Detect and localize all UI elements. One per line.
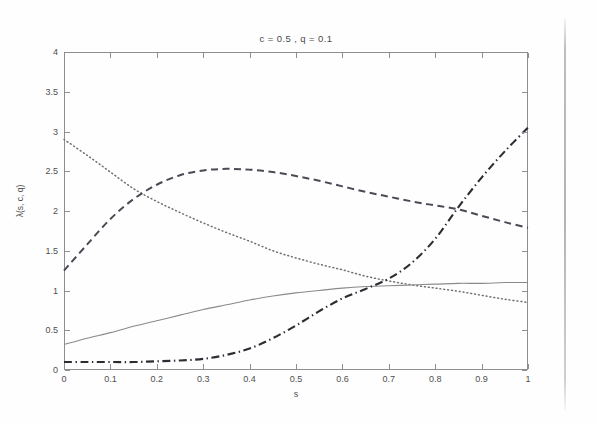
x-tick-mark (250, 53, 251, 58)
curve-dash-dot-rising (64, 128, 528, 363)
y-tick-mark (65, 291, 70, 292)
y-tick-mark (65, 251, 70, 252)
x-tick-mark (482, 364, 483, 369)
x-tick-mark (435, 53, 436, 58)
y-tick-label: 1 (53, 286, 58, 296)
y-tick-mark (522, 251, 527, 252)
y-tick-mark (65, 171, 70, 172)
x-tick-mark (296, 364, 297, 369)
x-tick-mark (110, 53, 111, 58)
x-tick-label: 0.8 (429, 374, 442, 384)
x-tick-mark (157, 364, 158, 369)
x-tick-label: 1 (525, 374, 530, 384)
y-tick-mark (65, 211, 70, 212)
y-tick-label: 3.5 (45, 87, 58, 97)
y-tick-mark (65, 132, 70, 133)
x-tick-mark (203, 53, 204, 58)
y-tick-mark (522, 291, 527, 292)
y-tick-label: 2.5 (45, 166, 58, 176)
x-tick-mark (250, 364, 251, 369)
x-tick-mark (528, 53, 529, 58)
y-tick-mark (522, 52, 527, 53)
y-tick-mark (65, 370, 70, 371)
y-tick-mark (522, 92, 527, 93)
x-axis-label: s (64, 389, 528, 399)
plot-title: c = 0.5 , q = 0.1 (64, 33, 528, 44)
x-tick-label-group: 00.10.20.30.40.50.60.70.80.91 (64, 374, 528, 388)
y-tick-label: 4 (53, 47, 58, 57)
figure-page: c = 0.5 , q = 0.1 λ(s, c, q) 00.511.522.… (0, 0, 597, 424)
x-tick-label: 0.5 (290, 374, 303, 384)
y-axis-label: λ(s, c, q) (15, 161, 25, 241)
x-tick-label: 0.1 (104, 374, 117, 384)
x-tick-label: 0.4 (243, 374, 256, 384)
scan-edge-artifact (564, 18, 566, 410)
x-tick-label: 0.7 (383, 374, 396, 384)
y-tick-mark (65, 92, 70, 93)
x-tick-mark (389, 364, 390, 369)
x-tick-mark (157, 53, 158, 58)
x-tick-mark (64, 53, 65, 58)
curve-group (64, 52, 528, 370)
x-tick-mark (203, 364, 204, 369)
x-tick-mark (296, 53, 297, 58)
y-tick-mark (522, 171, 527, 172)
x-tick-label: 0.3 (197, 374, 210, 384)
x-tick-label: 0.6 (336, 374, 349, 384)
x-tick-mark (389, 53, 390, 58)
x-tick-mark (110, 364, 111, 369)
x-tick-mark (342, 53, 343, 58)
y-tick-label: 2 (53, 206, 58, 216)
x-tick-mark (435, 364, 436, 369)
plot-axes (64, 52, 528, 370)
x-tick-mark (342, 364, 343, 369)
x-tick-label: 0.9 (475, 374, 488, 384)
y-tick-label: 1.5 (45, 246, 58, 256)
y-tick-mark (65, 330, 70, 331)
y-tick-mark (522, 132, 527, 133)
curve-dashed-humped (64, 169, 528, 271)
x-tick-mark (64, 364, 65, 369)
y-tick-mark (65, 52, 70, 53)
y-tick-label: 3 (53, 127, 58, 137)
y-tick-label: 0.5 (45, 325, 58, 335)
plot-figure: c = 0.5 , q = 0.1 λ(s, c, q) 00.511.522.… (0, 0, 560, 424)
curve-solid-saturating (64, 282, 528, 344)
y-tick-label-group: 00.511.522.533.54 (30, 52, 58, 370)
x-tick-label: 0.2 (151, 374, 164, 384)
y-tick-mark (522, 370, 527, 371)
x-tick-mark (528, 364, 529, 369)
x-tick-label: 0 (61, 374, 66, 384)
y-tick-mark (522, 330, 527, 331)
y-tick-mark (522, 211, 527, 212)
curve-dotted-decreasing (64, 139, 528, 302)
x-tick-mark (482, 53, 483, 58)
y-tick-label: 0 (53, 365, 58, 375)
